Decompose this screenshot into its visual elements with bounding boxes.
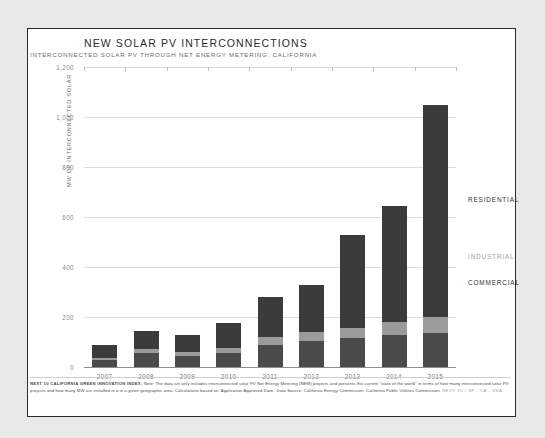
bar-segment-industrial (299, 332, 324, 341)
gridline (84, 67, 456, 68)
legend-item-industrial: INDUSTRIAL (468, 253, 515, 260)
bar-segment-commercial (258, 345, 283, 368)
bar-segment-residential (382, 206, 407, 322)
bar-2008 (134, 331, 159, 367)
x-tick-mark (208, 67, 209, 71)
plot-area: MW OF INTERCONNECTED SOLAR 0200400600800… (84, 67, 456, 367)
chart-subtitle: INTERCONNECTED SOLAR PV THROUGH NET ENER… (30, 51, 317, 58)
x-tick-mark (373, 67, 374, 71)
x-tick-mark (125, 67, 126, 71)
x-tick-mark (456, 67, 457, 71)
legend-item-residential: RESIDENTIAL (468, 196, 519, 203)
bar-segment-commercial (216, 353, 241, 367)
bar-segment-residential (423, 105, 448, 318)
footnote-lead: NEXT 10 CALIFORNIA GREEN INNOVATION INDE… (30, 381, 142, 386)
x-tick-mark (291, 67, 292, 71)
chart-title: NEW SOLAR PV INTERCONNECTIONS (84, 37, 308, 49)
x-tick-mark (415, 67, 416, 71)
chart-frame: NEW SOLAR PV INTERCONNECTIONS INTERCONNE… (27, 28, 516, 417)
gridline (84, 117, 456, 118)
bar-segment-industrial (382, 322, 407, 335)
y-tick-label: 800 (62, 164, 74, 171)
y-tick-label: 1,000 (56, 114, 74, 121)
bar-segment-residential (134, 331, 159, 349)
bar-segment-industrial (175, 352, 200, 356)
bar-2009 (175, 335, 200, 368)
footnote-tag: NEXT 10 / SF - CA - USA (442, 388, 502, 393)
bar-2011 (258, 297, 283, 367)
x-tick-mark (84, 67, 85, 71)
y-tick-label: 0 (70, 364, 74, 371)
footnote: NEXT 10 CALIFORNIA GREEN INNOVATION INDE… (30, 381, 511, 395)
bar-segment-industrial (423, 317, 448, 333)
bar-segment-residential (92, 345, 117, 358)
bar-segment-industrial (340, 328, 365, 338)
bar-segment-commercial (134, 353, 159, 367)
bar-2013 (340, 235, 365, 368)
gridline (84, 367, 456, 368)
footnote-divider (30, 377, 511, 378)
bar-segment-residential (175, 335, 200, 353)
y-tick-label: 600 (62, 214, 74, 221)
bar-2015 (423, 105, 448, 368)
bar-2014 (382, 206, 407, 367)
bar-2012 (299, 285, 324, 368)
y-tick-label: 400 (62, 264, 74, 271)
x-tick-mark (332, 67, 333, 71)
bar-segment-industrial (134, 349, 159, 354)
bar-segment-industrial (216, 348, 241, 353)
bar-segment-commercial (423, 333, 448, 367)
bar-segment-commercial (175, 356, 200, 367)
bar-segment-commercial (382, 335, 407, 368)
bar-segment-industrial (92, 358, 117, 360)
y-tick-label: 200 (62, 314, 74, 321)
bar-segment-residential (258, 297, 283, 337)
bar-segment-industrial (258, 337, 283, 345)
x-tick-mark (249, 67, 250, 71)
bar-segment-commercial (299, 341, 324, 367)
legend-item-commercial: COMMERCIAL (468, 279, 520, 286)
bar-2007 (92, 345, 117, 368)
gridline (84, 167, 456, 168)
bar-2010 (216, 323, 241, 367)
y-tick-label: 1,200 (56, 64, 74, 71)
bar-segment-residential (340, 235, 365, 329)
bar-segment-commercial (92, 360, 117, 368)
x-tick-mark (167, 67, 168, 71)
bar-segment-residential (216, 323, 241, 348)
bar-segment-commercial (340, 338, 365, 367)
bar-segment-residential (299, 285, 324, 333)
